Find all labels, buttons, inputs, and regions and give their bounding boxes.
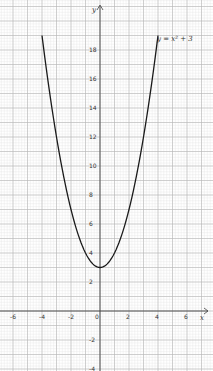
svg-text:18: 18 [89, 46, 97, 53]
svg-text:-2: -2 [89, 336, 95, 343]
axes [0, 5, 208, 371]
tick-labels: -6-4-2024618161412108642-2-4 [10, 46, 188, 371]
minor-grid [0, 0, 213, 371]
curve-label: y = x² + 3 [156, 35, 193, 43]
svg-text:0: 0 [95, 313, 99, 320]
svg-text:-4: -4 [39, 313, 45, 320]
svg-text:6: 6 [184, 313, 188, 320]
svg-text:12: 12 [89, 133, 97, 140]
svg-text:-6: -6 [10, 313, 16, 320]
svg-text:14: 14 [89, 104, 97, 111]
svg-text:2: 2 [89, 278, 93, 285]
svg-text:2: 2 [126, 313, 130, 320]
svg-text:-2: -2 [68, 313, 74, 320]
x-axis-label: x [200, 314, 204, 322]
svg-text:-4: -4 [89, 365, 95, 371]
svg-text:4: 4 [89, 249, 93, 256]
svg-text:6: 6 [89, 220, 93, 227]
svg-text:16: 16 [89, 75, 97, 82]
svg-text:4: 4 [155, 313, 159, 320]
y-axis-label: y [91, 6, 97, 14]
svg-text:10: 10 [89, 162, 97, 169]
graph-paper-chart: -6-4-2024618161412108642-2-4 y = x² + 3 … [0, 0, 213, 371]
svg-text:8: 8 [89, 191, 93, 198]
